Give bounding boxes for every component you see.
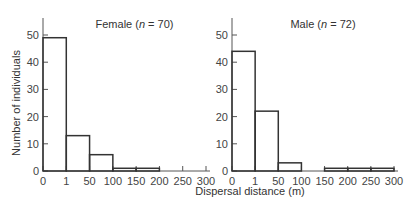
y-tick-label: 30 [27, 83, 39, 95]
x-tick-label: 100 [104, 175, 122, 187]
x-tick-label: 200 [150, 175, 168, 187]
y-tick-label: 10 [216, 138, 228, 150]
female-panel: 010203040500150100150200250300Female (n … [27, 18, 215, 187]
x-tick-label: 50 [83, 175, 95, 187]
x-tick-label: 200 [339, 175, 357, 187]
y-tick-label: 50 [27, 29, 39, 41]
histogram-bar [348, 168, 371, 171]
x-tick-label: 250 [362, 175, 380, 187]
panel-title: Male (n = 72) [290, 18, 355, 30]
x-tick-label: 1 [63, 175, 69, 187]
x-axis-label: Dispersal distance (m) [195, 185, 304, 197]
x-tick-label: 250 [174, 175, 192, 187]
histogram-bar [278, 163, 301, 171]
histogram-bar [43, 38, 66, 171]
histogram-bar [371, 168, 394, 171]
y-tick-label: 10 [27, 138, 39, 150]
histogram-figure: 010203040500150100150200250300Female (n … [0, 0, 411, 212]
histogram-bar [255, 111, 278, 171]
histogram-bar [232, 51, 255, 171]
histogram-bar [325, 168, 348, 171]
y-tick-label: 0 [222, 165, 228, 177]
y-tick-label: 20 [216, 111, 228, 123]
y-axis-label: Number of individuals [10, 50, 22, 156]
y-tick-label: 0 [33, 165, 39, 177]
histogram-bar [90, 155, 113, 171]
y-tick-label: 40 [27, 56, 39, 68]
histogram-bar [66, 136, 89, 171]
y-tick-label: 20 [27, 111, 39, 123]
histogram-bar [113, 168, 136, 171]
panel-title: Female (n = 70) [96, 18, 174, 30]
y-tick-label: 50 [216, 29, 228, 41]
x-tick-label: 150 [315, 175, 333, 187]
male-panel: 010203040500150100150200250300Male (n = … [216, 18, 403, 187]
histogram-bar [136, 168, 159, 171]
x-tick-label: 300 [385, 175, 403, 187]
x-tick-label: 150 [127, 175, 145, 187]
x-tick-label: 0 [40, 175, 46, 187]
y-tick-label: 40 [216, 56, 228, 68]
y-tick-label: 30 [216, 83, 228, 95]
